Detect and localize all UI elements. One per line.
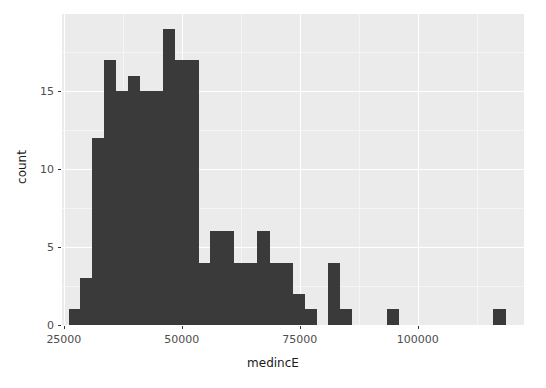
histogram-bar: [104, 60, 116, 325]
histogram-bar: [234, 263, 246, 325]
histogram-bar: [305, 309, 317, 325]
gridline-major-vertical: [64, 14, 65, 325]
x-tick-label: 50000: [142, 334, 222, 345]
histogram-bar: [92, 138, 104, 325]
y-axis-title: count: [15, 127, 29, 207]
histogram-figure: 051015 250005000075000100000 medincE cou…: [0, 0, 546, 388]
gridline-major-vertical: [300, 14, 301, 325]
histogram-bar: [293, 294, 305, 325]
y-tick-mark: [58, 247, 61, 248]
histogram-bar: [281, 263, 293, 325]
x-tick-label: 100000: [378, 334, 458, 345]
histogram-bar: [246, 263, 258, 325]
histogram-bar: [493, 309, 505, 325]
y-tick-label: 5: [47, 242, 54, 253]
histogram-bar: [269, 263, 281, 325]
histogram-bar: [151, 91, 163, 325]
y-tick-mark: [58, 91, 61, 92]
histogram-bar: [69, 309, 81, 325]
histogram-bar: [116, 91, 128, 325]
x-tick-mark: [182, 326, 183, 329]
histogram-bar: [340, 309, 352, 325]
x-tick-label: 25000: [24, 334, 104, 345]
histogram-bar: [80, 278, 92, 325]
x-axis-title: medincE: [0, 356, 546, 370]
histogram-bar: [198, 263, 210, 325]
gridline-major-vertical: [418, 14, 419, 325]
y-tick-mark: [58, 325, 61, 326]
histogram-bar: [187, 60, 199, 325]
histogram-bar: [328, 263, 340, 325]
histogram-bar: [210, 231, 222, 325]
x-tick-mark: [418, 326, 419, 329]
histogram-bar: [387, 309, 399, 325]
y-tick-mark: [58, 169, 61, 170]
x-tick-mark: [64, 326, 65, 329]
x-tick-mark: [300, 326, 301, 329]
plot-panel: [62, 14, 524, 325]
y-tick-label: 15: [40, 86, 54, 97]
gridline-minor-horizontal: [62, 52, 524, 53]
histogram-bar: [175, 60, 187, 325]
histogram-bar: [128, 76, 140, 325]
histogram-bar: [257, 231, 269, 325]
y-tick-label: 10: [40, 164, 54, 175]
y-tick-label: 0: [47, 320, 54, 331]
histogram-bar: [139, 91, 151, 325]
histogram-bar: [222, 231, 234, 325]
histogram-bar: [163, 29, 175, 325]
x-tick-label: 75000: [260, 334, 340, 345]
